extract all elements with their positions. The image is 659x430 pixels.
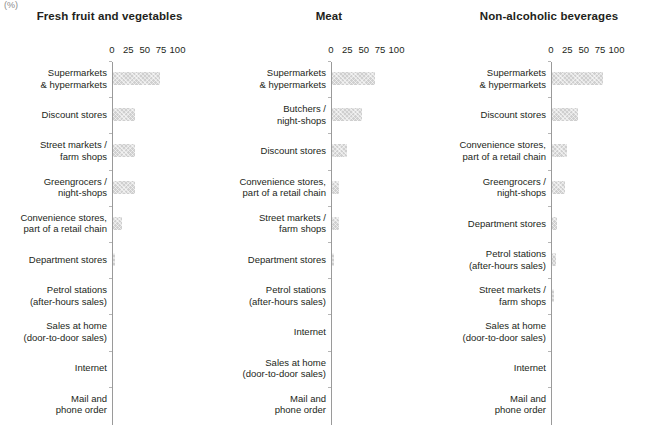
category-tick <box>109 242 112 243</box>
chart-panel-0: Fresh fruit and vegetables0255075100Supe… <box>0 0 219 430</box>
x-tick-label: 50 <box>358 44 369 55</box>
bar-row: Convenience stores, part of a retail cha… <box>331 181 397 194</box>
category-tick <box>109 206 112 207</box>
x-tick-label: 25 <box>123 44 134 55</box>
bar-row: Greengrocers / night-shops <box>112 181 178 194</box>
bar <box>332 217 339 230</box>
x-tick-label: 75 <box>595 44 606 55</box>
bar <box>552 72 603 85</box>
bar <box>332 181 339 194</box>
category-label: Discount stores <box>206 145 326 157</box>
bar <box>332 72 375 85</box>
bar-row: Street markets / farm shops <box>112 144 178 157</box>
bar <box>113 72 160 85</box>
category-label: Convenience stores, part of a retail cha… <box>426 139 546 162</box>
category-tick <box>328 97 331 98</box>
x-tick-label: 0 <box>548 44 553 55</box>
x-tick-label: 75 <box>375 44 386 55</box>
bar-row: Petrol stations (after-hours sales) <box>112 289 178 302</box>
category-tick <box>109 351 112 352</box>
bar <box>552 217 557 230</box>
category-tick <box>109 387 112 388</box>
bar-row: Mail and phone order <box>331 398 397 411</box>
bar <box>552 108 578 121</box>
bar <box>552 289 554 302</box>
bar-row: Petrol stations (after-hours sales) <box>551 253 617 266</box>
category-label: Mail and phone order <box>426 393 546 416</box>
bar <box>113 181 135 194</box>
category-label: Internet <box>0 362 107 374</box>
bar-row: Sales at home (door-to-door sales) <box>112 325 178 338</box>
bar-row: Mail and phone order <box>112 398 178 411</box>
bar <box>113 144 135 157</box>
category-label: Supermarkets & hypermarkets <box>0 67 107 90</box>
category-tick <box>109 170 112 171</box>
plot-area: Supermarkets & hypermarketsDiscount stor… <box>112 62 178 425</box>
bar <box>332 144 347 157</box>
category-label: Petrol stations (after-hours sales) <box>206 284 326 307</box>
category-tick <box>328 387 331 388</box>
category-label: Street markets / farm shops <box>0 139 107 162</box>
category-label: Petrol stations (after-hours sales) <box>0 284 107 307</box>
category-label: Internet <box>206 326 326 338</box>
category-label: Department stores <box>206 254 326 266</box>
bar-row: Convenience stores, part of a retail cha… <box>112 217 178 230</box>
bar-row: Supermarkets & hypermarkets <box>112 72 178 85</box>
panel-title: Fresh fruit and vegetables <box>0 10 219 22</box>
bar-row: Sales at home (door-to-door sales) <box>331 362 397 375</box>
category-label: Greengrocers / night-shops <box>426 176 546 199</box>
category-tick <box>328 170 331 171</box>
panel-title: Meat <box>219 10 439 22</box>
x-tick-label: 0 <box>109 44 114 55</box>
category-tick <box>548 387 551 388</box>
category-label: Convenience stores, part of a retail cha… <box>0 212 107 235</box>
category-label: Discount stores <box>0 109 107 121</box>
bar <box>332 108 362 121</box>
category-tick <box>109 278 112 279</box>
bar <box>113 217 122 230</box>
bar-row: Discount stores <box>551 108 617 121</box>
bar <box>332 253 334 266</box>
bar-row: Discount stores <box>331 144 397 157</box>
bar-row: Department stores <box>112 253 178 266</box>
chart-panel-1: Meat0255075100Supermarkets & hypermarket… <box>219 0 439 430</box>
category-tick <box>548 133 551 134</box>
bar-row: Petrol stations (after-hours sales) <box>331 289 397 302</box>
panel-title: Non-alcoholic beverages <box>439 10 659 22</box>
bar-row: Street markets / farm shops <box>331 217 397 230</box>
category-tick <box>548 314 551 315</box>
bar <box>113 253 115 266</box>
category-label: Convenience stores, part of a retail cha… <box>206 176 326 199</box>
category-tick <box>328 314 331 315</box>
bar-row: Sales at home (door-to-door sales) <box>551 325 617 338</box>
bar-row: Greengrocers / night-shops <box>551 181 617 194</box>
bar-row: Discount stores <box>112 108 178 121</box>
bar-row: Supermarkets & hypermarkets <box>551 72 617 85</box>
category-label: Internet <box>426 362 546 374</box>
x-tick-label: 100 <box>609 44 625 55</box>
category-tick <box>548 206 551 207</box>
bar-row: Internet <box>551 362 617 375</box>
category-tick <box>109 97 112 98</box>
x-tick-label: 50 <box>578 44 589 55</box>
chart-panels: Fresh fruit and vegetables0255075100Supe… <box>0 0 659 430</box>
x-tick-label: 100 <box>170 44 186 55</box>
x-tick-label: 100 <box>389 44 405 55</box>
bar-row: Internet <box>331 325 397 338</box>
category-label: Department stores <box>0 254 107 266</box>
bar <box>552 253 556 266</box>
category-label: Supermarkets & hypermarkets <box>426 67 546 90</box>
category-label: Street markets / farm shops <box>206 212 326 235</box>
bar-row: Street markets / farm shops <box>551 289 617 302</box>
bar-row: Butchers / night-shops <box>331 108 397 121</box>
bar-row: Department stores <box>331 253 397 266</box>
chart-panel-2: Non-alcoholic beverages0255075100Superma… <box>439 0 659 430</box>
category-tick <box>109 133 112 134</box>
category-label: Discount stores <box>426 109 546 121</box>
category-tick <box>548 170 551 171</box>
x-tick-label: 50 <box>139 44 150 55</box>
bar <box>552 181 565 194</box>
x-tick-label: 75 <box>156 44 167 55</box>
bar <box>113 108 135 121</box>
category-tick <box>548 278 551 279</box>
